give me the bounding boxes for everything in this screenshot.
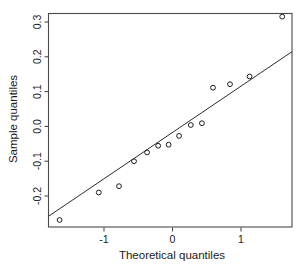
x-tick-label: 1 <box>238 233 244 245</box>
figure-background <box>0 0 301 266</box>
y-tick-label: 0.1 <box>31 84 43 99</box>
x-tick-label: 0 <box>170 233 176 245</box>
x-tick-label: -1 <box>99 233 108 245</box>
qq-plot-figure: Sample quantiles Theoretical quantiles 0… <box>0 0 301 266</box>
y-tick-label: -0.2 <box>31 187 43 205</box>
y-tick-label: -0.1 <box>31 152 43 170</box>
y-axis-title: Sample quantiles <box>7 75 19 163</box>
y-tick-label: 0.0 <box>31 119 43 134</box>
y-tick-label: 0.2 <box>31 49 43 64</box>
x-axis-title: Theoretical quantiles <box>119 249 225 261</box>
qq-plot-canvas: Sample quantiles Theoretical quantiles 0… <box>0 0 301 266</box>
y-tick-label: 0.3 <box>31 15 43 30</box>
